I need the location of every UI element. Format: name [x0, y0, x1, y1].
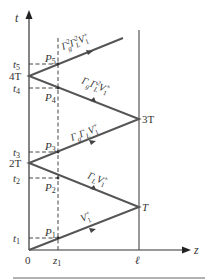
t4-label: t4 — [13, 82, 20, 96]
svg-text:ΓgΓLV+1: ΓgΓLV+1 — [67, 121, 101, 146]
z-axis-label: z — [193, 243, 199, 257]
arrow-icon — [89, 228, 96, 233]
t-axis-label: t — [15, 11, 19, 25]
P1-label: P1 — [44, 226, 56, 240]
t-axis-arrow-icon — [26, 10, 33, 19]
P5-label: P5 — [44, 52, 56, 66]
segment-label-3: ΓgΓLV+1 — [67, 121, 101, 146]
P3-label: P3 — [44, 140, 56, 154]
t3-label: t3 — [13, 146, 20, 160]
segment-label-4: ΓgΓ2LV+1 — [78, 73, 112, 98]
t5-label: t5 — [13, 58, 20, 72]
z1-label: z1 — [52, 254, 61, 268]
origin-label: 0 — [25, 254, 31, 266]
segment-label-1: V+1 — [78, 209, 94, 227]
z-axis-arrow-icon — [182, 247, 191, 254]
arrow-icon — [89, 140, 96, 145]
P2-label: P2 — [44, 181, 56, 195]
ell-label: ℓ — [135, 254, 140, 266]
P4-label: P4 — [44, 91, 56, 105]
3T-label: 3T — [142, 113, 155, 125]
t1-label: t1 — [13, 232, 20, 246]
T-label: T — [142, 201, 149, 213]
svg-text:V+1: V+1 — [78, 209, 94, 227]
svg-text:ΓgΓ2LV+1: ΓgΓ2LV+1 — [78, 73, 112, 98]
t2-label: t2 — [13, 172, 20, 186]
bounce-diagram: t z ℓ 0 z1 t1 t2 2T t3 t4 4T t5 — [0, 0, 205, 280]
